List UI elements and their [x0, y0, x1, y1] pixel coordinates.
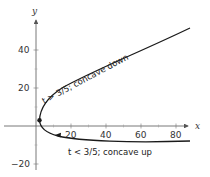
y-axis [34, 20, 39, 170]
y-tick-40: 40 [18, 45, 30, 55]
curve-upper-branch [40, 28, 191, 120]
x-tick-40: 40 [100, 130, 112, 140]
x-axis [4, 124, 188, 129]
parametric-curve-chart: y x 40 20 −20 20 40 60 80 t > 3/5; conca… [0, 0, 210, 177]
y-tick-neg20: −20 [11, 159, 30, 169]
y-tick-20: 20 [18, 83, 30, 93]
annotation-concave-down: t > 3/5; concave down [40, 52, 130, 106]
x-tick-60: 60 [135, 130, 147, 140]
y-axis-label: y [31, 6, 38, 16]
direction-arrow-icon [55, 133, 61, 138]
x-axis-label: x [195, 121, 200, 131]
x-tick-80: 80 [170, 130, 182, 140]
vertex-point [37, 118, 41, 122]
annotation-concave-up: t < 3/5; concave up [68, 147, 152, 157]
curve-lower-branch [40, 120, 191, 141]
